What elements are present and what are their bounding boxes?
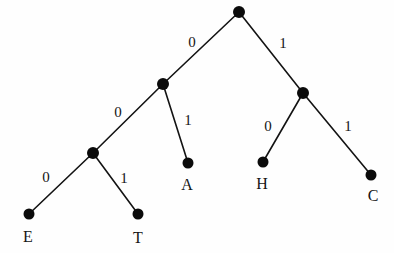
tree-edge <box>93 84 163 153</box>
tree-internal-node <box>87 147 99 159</box>
leaf-symbol-label: H <box>256 176 268 192</box>
edge-bit-label: 1 <box>184 113 192 128</box>
tree-graphics <box>0 0 394 253</box>
tree-edge <box>303 93 371 175</box>
tree-edge <box>93 153 138 214</box>
edge-bit-label: 1 <box>120 171 128 186</box>
tree-internal-node <box>157 78 169 90</box>
tree-leaf-node <box>183 158 194 169</box>
tree-leaf-node <box>133 209 144 220</box>
leaf-symbol-label: E <box>23 229 33 245</box>
edge-bit-label: 0 <box>188 35 196 50</box>
leaf-symbol-label: T <box>133 230 143 246</box>
edge-bit-label: 1 <box>344 119 352 134</box>
edges-group <box>29 12 371 214</box>
tree-edge <box>163 12 239 84</box>
tree-internal-node <box>233 6 245 18</box>
nodes-group <box>24 6 377 220</box>
tree-leaf-node <box>366 170 377 181</box>
edge-bit-label: 1 <box>279 36 287 51</box>
edge-bit-label: 0 <box>114 105 122 120</box>
tree-leaf-node <box>24 209 35 220</box>
tree-internal-node <box>297 87 309 99</box>
tree-leaf-node <box>258 157 269 168</box>
leaf-symbol-label: A <box>181 177 193 193</box>
tree-edge <box>239 12 303 93</box>
edge-bit-label: 0 <box>42 170 50 185</box>
leaf-symbol-label: C <box>368 188 379 204</box>
code-tree-diagram: 01010101 ETAHC <box>0 0 394 253</box>
tree-edge <box>29 153 93 214</box>
edge-bit-label: 0 <box>264 119 272 134</box>
